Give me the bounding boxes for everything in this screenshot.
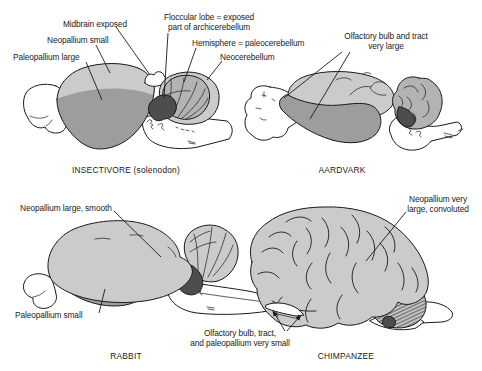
label-floccular-line1: Floccular lobe = exposed — [164, 12, 254, 22]
label-aardvark-olfactory: Olfactory bulb and tract very large — [344, 31, 427, 51]
label-chimp-olfactory-line1: Olfactory bulb, tract, — [190, 328, 290, 338]
label-chimp-neopallium: Neopallium very large, convoluted — [407, 194, 469, 214]
rabbit-brain-illustration — [23, 221, 280, 315]
label-aardvark-olfactory-line1: Olfactory bulb and tract — [344, 31, 427, 41]
label-chimp-olfactory: Olfactory bulb, tract, and paleopallium … — [190, 328, 290, 348]
label-neocerebellum: Neocerebellum — [220, 52, 275, 62]
caption-chimpanzee: CHIMPANZEE — [318, 351, 374, 361]
label-neopallium-small: Neopallium small — [47, 35, 109, 45]
label-aardvark-olfactory-line2: very large — [344, 41, 427, 51]
caption-rabbit: RABBIT — [110, 351, 141, 361]
leader-neocerebellum — [207, 61, 222, 80]
label-rabbit-neopallium: Neopallium large, smooth — [20, 203, 112, 213]
label-paleopallium-large: Paleopallium large — [13, 52, 79, 62]
chimpanzee-flocculus-spot — [382, 316, 395, 327]
label-hemisphere: Hemisphere = paleocerebellum — [192, 38, 304, 48]
label-floccular-line2: part of archicerebellum — [164, 22, 254, 32]
label-midbrain-exposed: Midbrain exposed — [63, 19, 127, 29]
label-rabbit-paleopallium: Paleopallium small — [15, 310, 82, 320]
insectivore-brain-illustration — [24, 64, 233, 149]
caption-aardvark: AARDVARK — [318, 165, 365, 175]
brain-comparison-figure: Midbrain exposed Neopallium small Paleop… — [0, 0, 482, 371]
label-floccular-lobe: Floccular lobe = exposed part of archice… — [164, 12, 254, 32]
caption-insectivore: INSECTIVORE (solenodon) — [72, 165, 180, 175]
label-chimp-olfactory-line2: and paleopallium very small — [190, 338, 290, 348]
chimpanzee-brain-illustration — [250, 207, 452, 330]
label-chimp-neopallium-line2: large, convoluted — [407, 204, 469, 214]
aardvark-brain-illustration — [245, 72, 463, 151]
rabbit-neopallium — [48, 221, 192, 303]
label-chimp-neopallium-line1: Neopallium very — [407, 194, 469, 204]
